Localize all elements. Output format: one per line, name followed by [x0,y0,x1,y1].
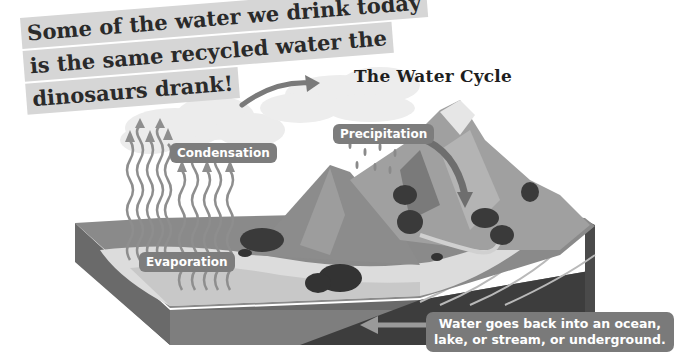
evaporation-label: Evaporation [139,252,235,272]
water-return-label: Water goes back into an ocean, lake, or … [426,312,674,352]
condensation-label: Condensation [170,143,277,163]
diagram-title: The Water Cycle [354,66,512,86]
water-return-line-1: Water goes back into an ocean, [434,316,666,332]
water-return-line-2: lake, or stream, or underground. [434,332,666,348]
precipitation-label: Precipitation [333,124,434,144]
